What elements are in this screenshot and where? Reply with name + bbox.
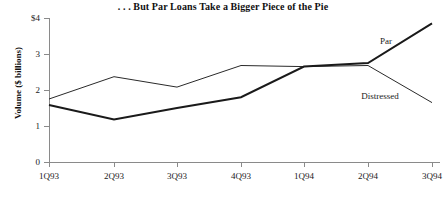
x-tick-label: 3Q93 <box>167 171 187 181</box>
x-axis-ticks: 1Q932Q933Q934Q931Q942Q943Q94 <box>39 162 442 181</box>
y-tick-label: 2 <box>36 85 41 95</box>
series-label-distressed: Distressed <box>361 91 399 101</box>
x-tick-label: 3Q94 <box>422 171 442 181</box>
plot-area: 0123$4 1Q932Q933Q934Q931Q942Q943Q94 Par … <box>0 0 446 199</box>
y-tick-label: 1 <box>36 121 41 131</box>
chart-container: . . . But Par Loans Take a Bigger Piece … <box>0 0 446 199</box>
x-tick-label: 2Q93 <box>104 171 124 181</box>
y-tick-label: 0 <box>36 157 41 167</box>
series-label-par: Par <box>380 36 392 46</box>
y-axis-ticks: 0123$4 <box>31 13 49 167</box>
y-tick-label: 3 <box>36 49 41 59</box>
y-tick-label: $4 <box>31 13 41 23</box>
x-tick-label: 1Q94 <box>294 171 314 181</box>
series-line-par <box>49 23 432 119</box>
x-tick-label: 2Q94 <box>358 171 378 181</box>
x-tick-label: 4Q93 <box>231 171 251 181</box>
x-tick-label: 1Q93 <box>39 171 59 181</box>
